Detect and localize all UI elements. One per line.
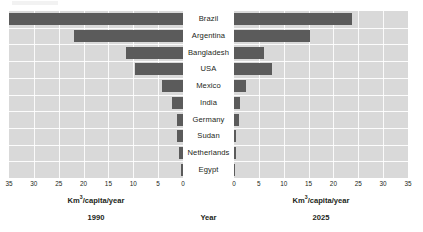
- x-tick-label: 30: [30, 180, 37, 187]
- x-tick-label: 15: [305, 180, 312, 187]
- category-label-argentina: Argentina: [183, 29, 234, 43]
- category-label-mexico: Mexico: [183, 79, 234, 93]
- scan-artifact: [12, 1, 58, 5]
- bar-argentina-2025[interactable]: [234, 30, 310, 42]
- row-separator: [9, 95, 183, 96]
- bar-sudan-2025[interactable]: [234, 130, 236, 142]
- x-tick-label: 25: [55, 180, 62, 187]
- bar-brazil-2025[interactable]: [234, 13, 352, 25]
- unit-suffix-right: /capita/year: [308, 196, 350, 205]
- row-separator: [234, 145, 408, 146]
- x-tick-label: 35: [404, 180, 411, 187]
- unit-prefix-right: Km: [293, 196, 305, 205]
- row-separator: [9, 161, 183, 162]
- x-tick-label: 0: [232, 180, 236, 187]
- x-tick-label: 20: [80, 180, 87, 187]
- unit-prefix-left: Km: [68, 196, 80, 205]
- x-tick-label: 15: [105, 180, 112, 187]
- category-label-bangladesh: Bangladesh: [183, 46, 234, 60]
- bar-brazil-1990[interactable]: [9, 13, 183, 25]
- bar-bangladesh-2025[interactable]: [234, 47, 264, 59]
- row-separator: [234, 61, 408, 62]
- plot-area-2025: [234, 11, 408, 178]
- x-tick-label: 25: [355, 180, 362, 187]
- category-label-usa: USA: [183, 62, 234, 76]
- center-axis-label-year: Year: [183, 213, 234, 222]
- x-tick-label: 0: [181, 180, 185, 187]
- bar-bangladesh-1990[interactable]: [126, 47, 183, 59]
- row-separator: [9, 78, 183, 79]
- row-separator: [9, 44, 183, 45]
- row-separator: [234, 78, 408, 79]
- row-separator: [234, 44, 408, 45]
- category-label-brazil: Brazil: [183, 12, 234, 26]
- row-separator: [234, 111, 408, 112]
- x-tick-label: 5: [257, 180, 261, 187]
- row-separator: [234, 28, 408, 29]
- bar-argentina-1990[interactable]: [74, 30, 183, 42]
- year-label-2025: 2025: [234, 213, 408, 222]
- x-tick-label: 30: [380, 180, 387, 187]
- x-tick-label: 5: [156, 180, 160, 187]
- row-separator: [9, 128, 183, 129]
- unit-suffix-left: /capita/year: [83, 196, 125, 205]
- row-separator: [9, 111, 183, 112]
- category-label-egypt: Egypt: [183, 163, 234, 177]
- x-axis-title-1990: Km3/capita/year: [9, 196, 183, 205]
- bar-egypt-2025[interactable]: [234, 164, 235, 176]
- category-label-netherlands: Netherlands: [183, 146, 234, 160]
- x-tick-label: 35: [5, 180, 12, 187]
- category-label-sudan: Sudan: [183, 129, 234, 143]
- category-label-india: India: [183, 96, 234, 110]
- x-tick-label: 10: [280, 180, 287, 187]
- year-label-1990: 1990: [9, 213, 183, 222]
- x-tick-label: 20: [330, 180, 337, 187]
- category-label-germany: Germany: [183, 113, 234, 127]
- x-axis-title-2025: Km3/capita/year: [234, 196, 408, 205]
- bar-india-2025[interactable]: [234, 97, 240, 109]
- bar-mexico-2025[interactable]: [234, 80, 246, 92]
- row-separator: [9, 145, 183, 146]
- bar-netherlands-2025[interactable]: [234, 147, 236, 159]
- row-separator: [9, 61, 183, 62]
- x-tick-label: 10: [130, 180, 137, 187]
- bidirectional-bar-chart: BrazilArgentinaBangladeshUSAMexicoIndiaG…: [0, 0, 423, 232]
- bar-germany-2025[interactable]: [234, 114, 239, 126]
- bar-india-1990[interactable]: [172, 97, 183, 109]
- x-axis-1990: 35302520151050: [9, 178, 183, 192]
- bar-usa-1990[interactable]: [135, 63, 183, 75]
- bar-usa-2025[interactable]: [234, 63, 272, 75]
- plot-area-1990: [9, 11, 183, 178]
- row-separator: [234, 161, 408, 162]
- row-separator: [234, 128, 408, 129]
- row-separator: [9, 28, 183, 29]
- bar-mexico-1990[interactable]: [162, 80, 183, 92]
- x-axis-2025: 05101520253035: [234, 178, 408, 192]
- category-label-column: BrazilArgentinaBangladeshUSAMexicoIndiaG…: [183, 11, 234, 178]
- row-separator: [234, 95, 408, 96]
